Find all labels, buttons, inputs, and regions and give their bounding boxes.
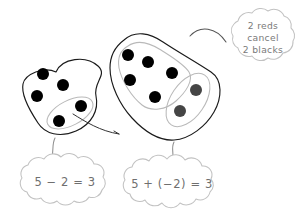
- left-black-counter-2: [57, 79, 69, 91]
- right-black-counter-4: [166, 67, 178, 79]
- figure-canvas: 2 reds cancel 2 blacks 5 − 2 = 3 5 + (−2…: [0, 0, 297, 216]
- right-equation-cloud-group: 5 + (−2) = 3: [123, 142, 213, 208]
- right-red-group-oval: [157, 66, 219, 135]
- left-black-counter-4: [75, 100, 87, 112]
- callout-line-2: cancel: [247, 32, 279, 43]
- right-black-counter-2: [142, 56, 154, 68]
- left-equation-cloud-group: 5 − 2 = 3: [20, 138, 105, 205]
- right-model-group: [110, 34, 220, 140]
- right-equation-text: 5 + (−2) = 3: [131, 177, 213, 191]
- callout-line-3: 2 blacks: [243, 44, 283, 55]
- left-removal-pointer: [73, 114, 119, 134]
- left-model-group: [23, 59, 119, 135]
- callout-cloud-group: 2 reds cancel 2 blacks: [190, 8, 295, 60]
- right-red-counter-2: [174, 105, 186, 117]
- left-removed-group-oval: [42, 91, 98, 136]
- callout-connector-line: [190, 29, 226, 42]
- right-black-counter-5: [149, 91, 161, 103]
- right-black-counter-1: [122, 49, 134, 61]
- left-black-counter-5: [53, 115, 65, 127]
- callout-line-1: 2 reds: [248, 20, 278, 31]
- left-equation-text: 5 − 2 = 3: [34, 175, 95, 189]
- right-black-counter-3: [124, 74, 136, 86]
- left-black-counter-1: [37, 68, 49, 80]
- left-black-counter-3: [31, 90, 43, 102]
- figure-svg: 2 reds cancel 2 blacks 5 − 2 = 3 5 + (−2…: [0, 0, 297, 216]
- right-red-counter-1: [190, 84, 202, 96]
